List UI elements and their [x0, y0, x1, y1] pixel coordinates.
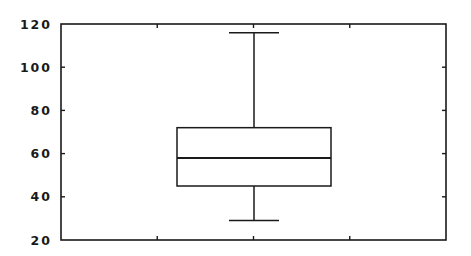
y-tick-label: 40	[31, 189, 52, 204]
interquartile-box	[177, 128, 331, 186]
y-tick-label: 80	[31, 103, 52, 118]
box-plot	[177, 33, 331, 221]
y-tick-label: 60	[31, 146, 52, 161]
box-plot-chart: 20406080100120	[0, 0, 471, 256]
y-axis-tick-labels: 20406080100120	[20, 17, 52, 248]
y-tick-label: 100	[20, 60, 52, 75]
y-tick-label: 120	[20, 17, 52, 32]
y-tick-label: 20	[31, 233, 52, 248]
